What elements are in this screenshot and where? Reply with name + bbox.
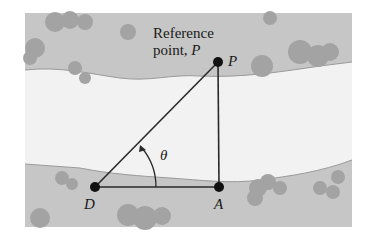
label-a: A (214, 197, 223, 212)
label-d: D (84, 197, 95, 212)
edge-pa (218, 62, 219, 187)
reference-label-var: P (191, 42, 200, 58)
point-d (90, 182, 100, 192)
point-p (213, 57, 223, 67)
reference-label-line1: Reference (153, 25, 214, 41)
reference-point-label: Reference point, P (153, 25, 214, 59)
label-p: P (228, 54, 237, 69)
diagram-canvas: Reference point, P P A D θ (0, 0, 371, 242)
river (25, 62, 352, 182)
reference-label-prefix: point, (153, 42, 191, 58)
point-a (214, 182, 224, 192)
label-theta: θ (160, 148, 167, 163)
